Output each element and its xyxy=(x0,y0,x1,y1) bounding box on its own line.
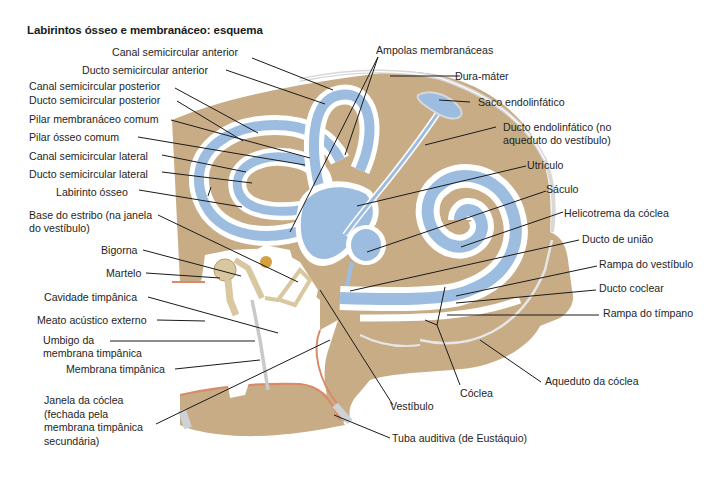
label-line-1: Umbigo da xyxy=(43,334,142,347)
label-line-1: Janela da cóclea xyxy=(44,394,143,408)
label-base-do-estribo: Base do estribo (na janela do vestíbulo) xyxy=(29,209,152,235)
label-umbigo-membrana: Umbigo da membrana timpânica xyxy=(43,334,142,360)
label-vestibulo: Vestíbulo xyxy=(390,400,434,413)
label-ampolas-membranaceas: Ampolas membranáceas xyxy=(376,44,493,57)
label-meato-acustico-externo: Meato acústico externo xyxy=(37,314,147,327)
label-line-3: membrana timpânica xyxy=(44,421,143,435)
label-janela-da-coclea: Janela da cóclea (fechada pela membrana … xyxy=(44,394,143,448)
label-labirinto-osseo: Labirinto ósseo xyxy=(56,186,128,199)
label-line-2: do vestíbulo) xyxy=(29,222,152,235)
label-helicotrema: Helicotrema da cóclea xyxy=(564,207,669,220)
label-martelo: Martelo xyxy=(106,267,141,280)
label-dura-mater: Dura-máter xyxy=(455,70,509,83)
label-coclea: Cóclea xyxy=(460,387,493,400)
label-line-2: aqueduto do vestíbulo) xyxy=(503,134,611,147)
label-bigorna: Bigorna xyxy=(101,244,138,257)
label-utriculo: Utrículo xyxy=(527,159,564,172)
label-line-2: membrana timpânica xyxy=(43,347,142,360)
label-pilar-osseo-comum: Pilar ósseo comum xyxy=(29,131,119,144)
label-rampa-do-timpano: Rampa do tímpano xyxy=(603,307,693,320)
label-line-1: Ducto endolinfático (no xyxy=(503,121,611,134)
label-ducto-semicircular-lateral: Ducto semicircular lateral xyxy=(29,168,148,181)
label-aqueduto-da-coclea: Aqueduto da cóclea xyxy=(545,375,639,388)
diagram-stage: Labirintos ósseo e membranáceo: esquema … xyxy=(0,0,724,479)
label-line-2: (fechada pela xyxy=(44,408,143,422)
label-ducto-coclear: Ducto coclear xyxy=(599,282,664,295)
label-canal-semicircular-anterior: Canal semicircular anterior xyxy=(112,46,238,59)
label-membrana-timpanica: Membrana timpânica xyxy=(66,363,165,376)
label-canal-semicircular-posterior: Canal semicircular posterior xyxy=(29,80,160,93)
label-saculo: Sáculo xyxy=(546,183,578,196)
label-saco-endolinfatico: Saco endolinfático xyxy=(478,96,565,109)
label-ducto-endolinfatico: Ducto endolinfático (no aqueduto do vest… xyxy=(503,121,611,147)
label-rampa-do-vestibulo: Rampa do vestíbulo xyxy=(599,258,693,271)
label-ducto-semicircular-anterior: Ducto semicircular anterior xyxy=(82,64,208,77)
diagram-title: Labirintos ósseo e membranáceo: esquema xyxy=(27,24,263,36)
label-canal-semicircular-lateral: Canal semicircular lateral xyxy=(29,150,148,163)
label-ducto-de-uniao: Ducto de união xyxy=(582,233,653,246)
label-pilar-membranaceo-comum: Pilar membranáceo comum xyxy=(29,113,159,126)
label-tuba-auditiva: Tuba auditiva (de Eustáquio) xyxy=(392,432,527,445)
label-line-4: secundária) xyxy=(44,435,143,449)
label-line-1: Base do estribo (na janela xyxy=(29,209,152,222)
label-ducto-semicircular-posterior: Ducto semicircular posterior xyxy=(29,94,160,107)
label-cavidade-timpanica: Cavidade timpânica xyxy=(44,291,137,304)
